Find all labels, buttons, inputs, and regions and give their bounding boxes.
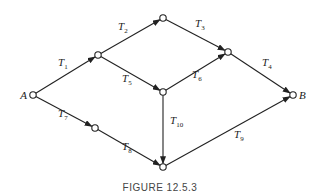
edge-label-t4: T4 xyxy=(262,56,272,71)
node-n1 xyxy=(95,52,101,58)
edge-label-t9: T9 xyxy=(234,128,244,143)
node-label-b: B xyxy=(299,89,306,101)
edge-label-t10: T10 xyxy=(170,114,184,129)
edge-t4 xyxy=(231,54,290,93)
edge-label-t2: T2 xyxy=(118,20,128,35)
figure-caption: FIGURE 12.5.3 xyxy=(123,182,198,193)
edge-label-t6: T6 xyxy=(192,68,202,83)
network-diagram: T1T2T3T4T5T6T7T8T9T10AB FIGURE 12.5.3 xyxy=(0,0,321,196)
node-n10 xyxy=(160,164,166,170)
node-b xyxy=(290,92,296,98)
edge-label-t3: T3 xyxy=(195,17,205,32)
edge-t9 xyxy=(166,97,290,166)
edge-t2 xyxy=(101,20,160,54)
node-n5 xyxy=(160,89,166,95)
edge-label-t1: T1 xyxy=(58,56,68,71)
node-n3 xyxy=(225,49,231,55)
node-a xyxy=(30,92,36,98)
node-n2 xyxy=(160,15,166,21)
edge-label-t8: T8 xyxy=(122,140,132,155)
node-n7 xyxy=(92,125,98,131)
node-label-a: A xyxy=(19,89,27,101)
edge-label-t7: T7 xyxy=(58,107,68,122)
